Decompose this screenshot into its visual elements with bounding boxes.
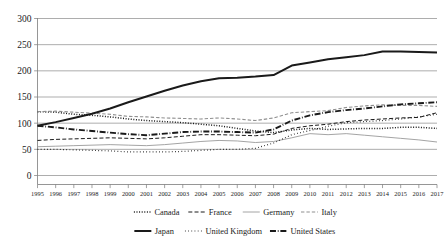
y-tick-label: 50 xyxy=(22,145,32,155)
y-tick-label: 100 xyxy=(17,119,32,129)
y-tick-labels: 050100150200250300 xyxy=(17,14,37,181)
x-tick-label: 2000 xyxy=(122,190,135,197)
data-series-group xyxy=(38,51,438,151)
x-tick-label: 2008 xyxy=(267,190,280,197)
x-tick-label: 2009 xyxy=(285,190,298,197)
chart-legend: CanadaFranceGermanyItalyJapanUnited King… xyxy=(134,208,338,236)
legend-label-germany: Germany xyxy=(263,208,295,217)
legend-label-canada: Canada xyxy=(154,208,179,217)
x-tick-label: 2004 xyxy=(195,190,209,197)
x-tick-label: 2012 xyxy=(340,190,353,197)
line-chart: 050100150200250300 199519961997199819992… xyxy=(0,0,444,248)
x-tick-label: 2010 xyxy=(303,190,316,197)
y-tick-label: 0 xyxy=(27,171,32,181)
x-tick-label: 1999 xyxy=(104,190,117,197)
series-line-japan xyxy=(38,51,438,125)
x-tick-label: 2013 xyxy=(358,190,371,197)
legend-label-united-kingdom: United Kingdom xyxy=(205,227,262,236)
legend-label-italy: Italy xyxy=(322,208,338,217)
series-line-united-kingdom xyxy=(38,114,438,152)
legend-label-united-states: United States xyxy=(290,227,335,236)
y-tick-label: 300 xyxy=(17,14,32,24)
x-tick-labels: 1995199619971998199920002001200220032004… xyxy=(31,190,444,197)
legend-label-japan: Japan xyxy=(155,227,175,236)
legend-label-france: France xyxy=(209,208,232,217)
x-tick-label: 2017 xyxy=(431,190,444,197)
x-tick-label: 2014 xyxy=(376,190,390,197)
x-tick-label: 1997 xyxy=(67,190,81,197)
x-tick-label: 2005 xyxy=(213,190,226,197)
x-tick-label: 2002 xyxy=(158,190,171,197)
x-tick-label: 1995 xyxy=(31,190,44,197)
y-tick-label: 250 xyxy=(17,40,32,50)
x-tick-label: 2007 xyxy=(249,190,263,197)
x-tick-label: 2011 xyxy=(322,190,335,197)
x-tick-label: 2016 xyxy=(412,190,425,197)
y-tick-label: 150 xyxy=(17,92,32,102)
series-line-canada xyxy=(38,112,438,133)
x-axis xyxy=(38,185,438,189)
gridlines xyxy=(38,19,438,176)
x-tick-label: 2003 xyxy=(176,190,189,197)
chart-figure: 050100150200250300 199519961997199819992… xyxy=(0,0,444,248)
x-tick-label: 1996 xyxy=(49,190,62,197)
x-tick-label: 2001 xyxy=(140,190,153,197)
x-tick-label: 2006 xyxy=(231,190,244,197)
x-tick-label: 2015 xyxy=(394,190,407,197)
y-tick-label: 200 xyxy=(17,66,32,76)
x-tick-label: 1998 xyxy=(86,190,99,197)
